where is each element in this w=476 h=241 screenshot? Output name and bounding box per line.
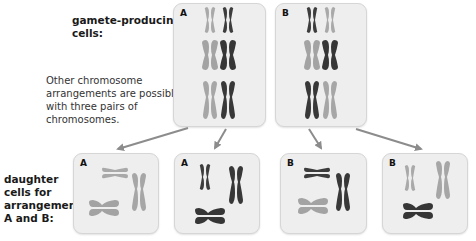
daughter-a1-chromosomes [89,168,146,216]
daughter-b1-chromosomes [298,168,350,214]
daughter-a2-chromosomes [195,164,243,224]
parent-a-chromosomes [202,7,236,119]
chromosome-illustrations [0,0,476,241]
daughter-b2-chromosomes [403,161,450,219]
parent-b-chromosomes [304,7,338,119]
